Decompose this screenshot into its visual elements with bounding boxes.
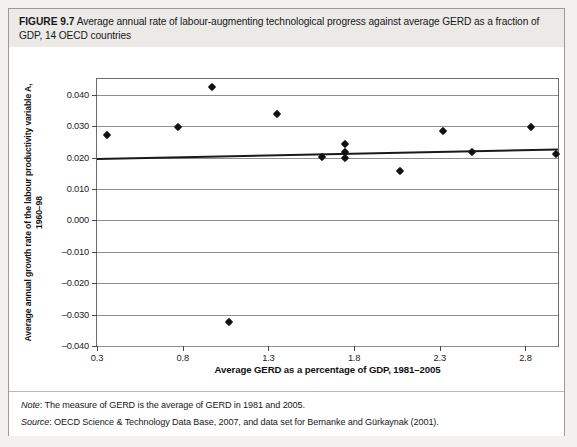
figure-caption-bar: FIGURE 9.7 Average annual rate of labour… [9, 9, 564, 50]
figure-notes: Note: The measure of GERD is the average… [9, 391, 564, 436]
data-point [341, 139, 349, 147]
plot-region: Average annual growth rate of the labour… [9, 47, 564, 391]
y-gridline [97, 283, 558, 284]
data-point [273, 109, 281, 117]
y-gridline [97, 252, 558, 253]
data-point [439, 126, 447, 134]
y-axis-tick-label: 0.020 [67, 153, 89, 163]
y-gridline [97, 126, 558, 127]
data-point [103, 130, 111, 138]
note-row: Note: The measure of GERD is the average… [21, 398, 552, 412]
source-label: Source [21, 417, 49, 427]
y-axis-tick-label: –0.010 [62, 247, 89, 257]
y-axis-tick-label: –0.020 [62, 278, 89, 288]
x-axis-tick-label: 0.3 [91, 353, 103, 363]
y-axis-tick [92, 189, 97, 190]
source-text: : OECD Science & Technology Data Base, 2… [49, 417, 438, 427]
x-axis-tick-label: 2.8 [519, 353, 531, 363]
note-text: : The measure of GERD is the average of … [40, 400, 305, 410]
x-axis-title: Average GERD as a percentage of GDP, 198… [96, 364, 559, 375]
y-axis-tick-label: 0.040 [67, 90, 89, 100]
x-axis-tick [440, 346, 441, 351]
data-point [173, 122, 181, 130]
data-point [526, 122, 534, 130]
y-gridline [97, 315, 558, 316]
data-point [468, 147, 476, 155]
data-point [396, 167, 404, 175]
y-axis-tick-label: 0.000 [67, 215, 89, 225]
y-axis-tick-label: –0.030 [62, 310, 89, 320]
figure-caption-text: Average annual rate of labour-augmenting… [19, 16, 539, 41]
note-label: Note [21, 400, 40, 410]
y-gridline [97, 189, 558, 190]
y-axis-tick [92, 95, 97, 96]
data-point [208, 83, 216, 91]
x-axis-tick [354, 346, 355, 351]
x-axis-tick [183, 346, 184, 351]
y-axis-tick-label: –0.040 [62, 341, 89, 351]
y-axis-tick [92, 315, 97, 316]
figure-number: FIGURE 9.7 [19, 16, 74, 27]
figure-card: FIGURE 9.7 Average annual rate of labour… [8, 8, 565, 436]
y-axis-tick [92, 126, 97, 127]
y-gridline [97, 95, 558, 96]
x-axis-tick [268, 346, 269, 351]
y-axis-tick [92, 283, 97, 284]
y-axis-tick [92, 220, 97, 221]
data-point [225, 318, 233, 326]
x-axis-tick-label: 1.3 [262, 353, 274, 363]
y-axis-title: Average annual growth rate of the labour… [23, 78, 45, 347]
x-axis-tick-label: 1.8 [348, 353, 360, 363]
x-axis-tick-label: 2.3 [434, 353, 446, 363]
x-axis-tick-label: 0.8 [177, 353, 189, 363]
y-axis-tick [92, 252, 97, 253]
figure-caption: FIGURE 9.7 Average annual rate of labour… [19, 15, 554, 43]
figure-root: FIGURE 9.7 Average annual rate of labour… [0, 0, 577, 447]
source-row: Source: OECD Science & Technology Data B… [21, 415, 552, 429]
plot-area: 0.0400.0300.0200.0100.000–0.010–0.020–0.… [96, 78, 559, 347]
y-gridline [97, 220, 558, 221]
y-axis-tick-label: 0.010 [67, 184, 89, 194]
y-axis-tick-label: 0.030 [67, 121, 89, 131]
x-axis-tick [525, 346, 526, 351]
y-axis-title-text: Average annual growth rate of the labour… [23, 78, 45, 347]
y-gridline [97, 346, 558, 347]
x-axis-tick [97, 346, 98, 351]
